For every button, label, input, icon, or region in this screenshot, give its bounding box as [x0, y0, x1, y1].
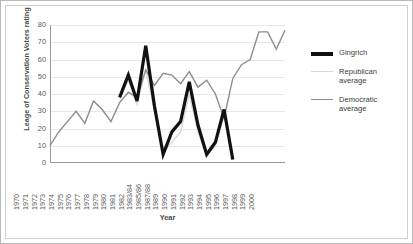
legend-item: Democratic average — [311, 95, 406, 114]
y-tick-label: 0 — [24, 159, 46, 167]
legend-label: Republican average — [339, 67, 406, 86]
y-tick-label: 10 — [24, 142, 46, 150]
series-line-republican-average — [120, 70, 233, 160]
y-tick-label: 60 — [24, 56, 46, 64]
chart-legend: GingrichRepublican averageDemocratic ave… — [311, 48, 406, 123]
y-tick-label: 40 — [24, 90, 46, 98]
y-tick-label: 20 — [24, 125, 46, 133]
x-axis-tick-labels: 1970197119721973197419751976197719781979… — [50, 166, 285, 210]
x-tick-label: 2000 — [248, 170, 288, 210]
legend-swatch-icon — [311, 52, 333, 56]
series-line-democratic-average — [50, 30, 285, 146]
chart-plot-container: Leage of Conservation Voters rating 8070… — [5, 5, 408, 239]
legend-item: Gingrich — [311, 48, 406, 58]
series-lines — [50, 25, 285, 163]
legend-swatch-icon — [311, 71, 333, 73]
chart-figure: Leage of Conservation Voters rating 8070… — [0, 0, 413, 244]
legend-label: Democratic average — [339, 95, 406, 114]
y-tick-label: 50 — [24, 73, 46, 81]
x-axis-title: Year — [50, 213, 285, 222]
legend-swatch-icon — [311, 99, 333, 101]
y-tick-label: 80 — [24, 21, 46, 29]
y-axis-tick-labels: 80706050403020100 — [24, 25, 46, 163]
legend-item: Republican average — [311, 67, 406, 86]
plot-area — [50, 25, 285, 163]
y-tick-label: 70 — [24, 38, 46, 46]
y-tick-label: 30 — [24, 107, 46, 115]
legend-label: Gingrich — [339, 48, 367, 58]
